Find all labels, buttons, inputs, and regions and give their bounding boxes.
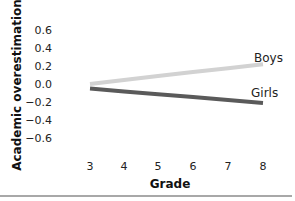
- x-tick-label: 6: [190, 160, 197, 173]
- line-chart: 0.60.40.20.0−0.2−0.4−0.6 345678 Boys Gir…: [0, 0, 295, 201]
- series-line-boys: [90, 64, 263, 84]
- x-tick-label: 8: [260, 160, 267, 173]
- y-tick-label: −0.4: [25, 114, 52, 127]
- y-tick-label: −0.2: [25, 96, 52, 109]
- series-lines: [90, 64, 263, 103]
- x-tick-label: 4: [121, 160, 128, 173]
- series-line-girls: [90, 89, 263, 103]
- y-axis-title: Academic overestimation: [10, 0, 24, 171]
- y-axis-ticks: 0.60.40.20.0−0.2−0.4−0.6: [25, 24, 52, 145]
- legend-girls: Girls: [251, 86, 278, 100]
- x-tick-label: 3: [87, 160, 94, 173]
- bottom-divider: [0, 195, 292, 197]
- y-tick-label: 0.0: [35, 78, 53, 91]
- y-tick-label: 0.2: [35, 60, 53, 73]
- legend-boys: Boys: [254, 51, 283, 65]
- y-tick-label: −0.6: [25, 132, 52, 145]
- y-tick-label: 0.6: [35, 24, 53, 37]
- x-tick-label: 5: [155, 160, 162, 173]
- x-axis-title: Grade: [150, 177, 191, 191]
- y-tick-label: 0.4: [35, 42, 53, 55]
- x-axis-ticks: 345678: [87, 160, 267, 173]
- x-tick-label: 7: [225, 160, 232, 173]
